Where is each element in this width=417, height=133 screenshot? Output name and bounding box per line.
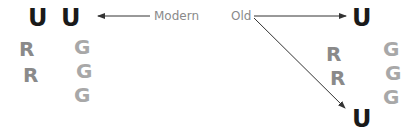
right-r-2: R	[330, 68, 345, 88]
left-r-2: R	[23, 65, 38, 85]
left-g-2: G	[76, 61, 92, 81]
right-u-top: U	[352, 6, 372, 30]
old-label: Old	[231, 10, 251, 22]
right-g-3: G	[383, 87, 399, 107]
left-r-1: R	[19, 39, 34, 59]
modern-label: Modern	[154, 10, 199, 22]
left-u-2: U	[61, 6, 81, 30]
left-g-3: G	[74, 85, 90, 105]
left-g-1: G	[74, 37, 90, 57]
right-r-1: R	[326, 44, 341, 64]
right-g-2: G	[385, 63, 401, 83]
left-u-1: U	[28, 6, 48, 30]
right-u-bottom: U	[352, 107, 372, 131]
right-g-1: G	[383, 39, 399, 59]
